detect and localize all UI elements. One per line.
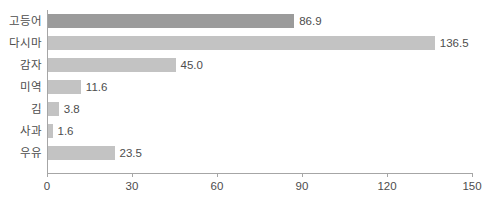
category-label: 우유 (0, 142, 42, 164)
bar-row: 김3.8 (47, 98, 472, 120)
bar-value-label: 136.5 (435, 36, 469, 50)
plot-area: 고등어86.9다시마136.5감자45.0미역11.6김3.8사과1.6우유23… (47, 10, 472, 173)
x-axis-tick (132, 173, 133, 177)
x-axis-tick-label: 0 (44, 180, 50, 192)
x-axis-tick-label: 30 (126, 180, 139, 192)
x-axis-tick-label: 150 (462, 180, 481, 192)
x-axis-tick (472, 173, 473, 177)
bar-value-label: 3.8 (59, 102, 80, 116)
bar (48, 14, 294, 28)
x-axis-line (47, 173, 473, 174)
category-label: 미역 (0, 76, 42, 98)
bar-value-label: 86.9 (294, 14, 321, 28)
bar-row: 감자45.0 (47, 54, 472, 76)
x-axis-tick (47, 173, 48, 177)
bar-chart: 고등어86.9다시마136.5감자45.0미역11.6김3.8사과1.6우유23… (0, 0, 496, 221)
category-label: 고등어 (0, 10, 42, 32)
category-label: 감자 (0, 54, 42, 76)
category-label: 김 (0, 98, 42, 120)
bar-row: 미역11.6 (47, 76, 472, 98)
bar (48, 36, 435, 50)
category-label: 다시마 (0, 32, 42, 54)
bar-value-label: 11.6 (81, 80, 108, 94)
bar (48, 58, 176, 72)
x-axis-tick-label: 60 (211, 180, 224, 192)
x-axis-tick (387, 173, 388, 177)
x-axis-tick-label: 90 (296, 180, 309, 192)
x-axis-tick (302, 173, 303, 177)
bar-row: 다시마136.5 (47, 32, 472, 54)
bar-row: 우유23.5 (47, 142, 472, 164)
bar-value-label: 1.6 (53, 124, 74, 138)
bar-value-label: 45.0 (176, 58, 203, 72)
x-axis-tick (217, 173, 218, 177)
bar-row: 사과1.6 (47, 120, 472, 142)
bar (48, 102, 59, 116)
bar-row: 고등어86.9 (47, 10, 472, 32)
x-axis-tick-label: 120 (377, 180, 396, 192)
bar (48, 146, 115, 160)
bar (48, 80, 81, 94)
category-label: 사과 (0, 120, 42, 142)
bar-value-label: 23.5 (115, 146, 142, 160)
